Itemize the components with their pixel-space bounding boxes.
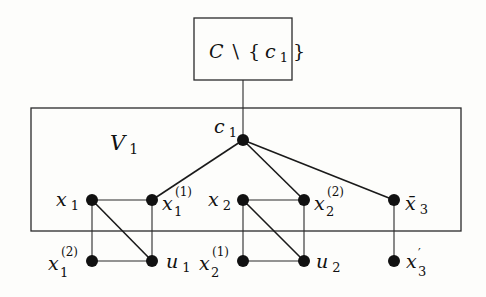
node-x1 bbox=[86, 194, 98, 206]
label-x2-2: x bbox=[314, 192, 325, 214]
label-x1-1: x bbox=[162, 192, 173, 214]
node-x1-1 bbox=[146, 194, 158, 206]
label-x1-1-sub: 1 bbox=[174, 204, 182, 219]
node-c1 bbox=[237, 134, 249, 146]
label-u2: u 2 bbox=[316, 250, 341, 275]
node-x2-1 bbox=[237, 255, 249, 267]
label-c1: c 1 bbox=[214, 115, 237, 140]
label-x2: x 2 bbox=[208, 188, 231, 213]
v1-region-box: V 1 bbox=[31, 108, 461, 231]
node-x1-2 bbox=[86, 255, 98, 267]
v1-box-frame bbox=[31, 108, 461, 231]
node-u1 bbox=[146, 255, 158, 267]
label-x1-2-sup: (2) bbox=[61, 245, 78, 259]
top-set-box: C \ { c 1 } bbox=[194, 18, 305, 80]
label-x1: x 1 bbox=[56, 188, 79, 213]
label-x1-2-sub: 1 bbox=[60, 265, 68, 280]
label-x3prime-sup: ′ bbox=[418, 247, 421, 261]
node-x3prime bbox=[388, 255, 400, 267]
edge-c1-x1_1 bbox=[152, 140, 243, 200]
label-x3bar: x̄ 3 bbox=[405, 192, 428, 217]
label-x1-1-sup: (1) bbox=[175, 185, 192, 199]
edge-c1-x2_2 bbox=[243, 140, 304, 200]
graph-diagram: C \ { c 1 } V 1 bbox=[0, 0, 486, 297]
node-x2 bbox=[237, 194, 249, 206]
label-x2-1-sup: (1) bbox=[212, 245, 229, 259]
label-x1-2: x bbox=[48, 252, 59, 274]
edges bbox=[92, 80, 394, 261]
label-u1: u 1 bbox=[166, 250, 191, 275]
label-x2-1: x bbox=[199, 252, 210, 274]
label-x2-2-sub: 2 bbox=[326, 204, 334, 219]
node-u2 bbox=[298, 255, 310, 267]
label-x2-2-sup: (2) bbox=[327, 185, 344, 199]
label-x3prime: x bbox=[406, 250, 417, 272]
edge-c1-x3bar bbox=[243, 140, 394, 200]
top-box-label: C \ { c 1 } bbox=[209, 40, 305, 65]
label-x3prime-sub: 3 bbox=[418, 264, 426, 279]
label-x2-1-sub: 2 bbox=[211, 265, 219, 280]
v1-label: V 1 bbox=[110, 131, 138, 157]
node-x3bar bbox=[388, 194, 400, 206]
node-x2-2 bbox=[298, 194, 310, 206]
